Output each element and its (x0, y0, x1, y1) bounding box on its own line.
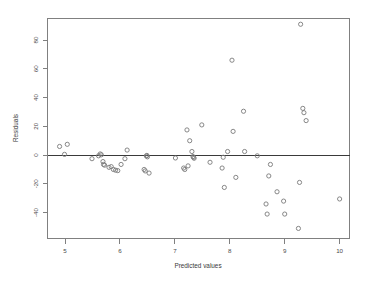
data-point (234, 175, 238, 179)
y-axis-tick-labels: -40-20020406080 (32, 36, 39, 217)
data-point (222, 185, 226, 189)
x-tick-label-8: 8 (228, 247, 232, 254)
data-point (208, 160, 212, 164)
data-point (338, 197, 342, 201)
x-tick-label-5: 5 (63, 247, 67, 254)
data-point (188, 139, 192, 143)
plot-frame (48, 19, 350, 239)
data-point (173, 156, 177, 160)
data-point (299, 22, 303, 26)
y-tick-label-20: 20 (32, 122, 39, 129)
x-axis-title: Predicted values (174, 262, 221, 269)
x-axis-tick-labels: 5678910 (63, 247, 343, 254)
data-point (186, 164, 190, 168)
data-point (230, 58, 234, 62)
data-point (147, 171, 151, 175)
plot-canvas: 5678910 -40-20020406080 Predicted values… (0, 0, 369, 281)
x-axis-ticks (65, 239, 340, 244)
data-point (185, 128, 189, 132)
data-point (119, 162, 123, 166)
y-tick-label--40: -40 (32, 208, 39, 218)
y-tick-label--20: -20 (32, 179, 39, 189)
data-point (90, 157, 94, 161)
data-point (264, 202, 268, 206)
data-point (190, 149, 194, 153)
y-tick-label-40: 40 (32, 94, 39, 101)
data-point (220, 166, 224, 170)
data-point (268, 162, 272, 166)
data-point (200, 123, 204, 127)
data-point (296, 226, 300, 230)
x-tick-label-10: 10 (336, 247, 343, 254)
y-axis-ticks (43, 40, 48, 213)
data-point (226, 149, 230, 153)
data-point (221, 155, 225, 159)
data-point (265, 212, 269, 216)
y-tick-label-80: 80 (32, 36, 39, 43)
x-tick-label-6: 6 (118, 247, 122, 254)
data-point (301, 106, 305, 110)
y-axis-title: Residuals (12, 114, 19, 142)
data-point (62, 152, 66, 156)
data-point (65, 142, 69, 146)
data-point (267, 174, 271, 178)
data-point (283, 212, 287, 216)
data-point (304, 118, 308, 122)
data-point (57, 144, 61, 148)
data-point (231, 129, 235, 133)
data-point (302, 111, 306, 115)
x-tick-label-9: 9 (283, 247, 287, 254)
data-point (241, 109, 245, 113)
residual-plot-figure: 5678910 -40-20020406080 Predicted values… (0, 0, 369, 281)
data-point (275, 190, 279, 194)
data-points (57, 22, 341, 230)
data-point (123, 157, 127, 161)
y-tick-label-0: 0 (32, 153, 39, 157)
x-tick-label-7: 7 (173, 247, 177, 254)
data-point (297, 180, 301, 184)
data-point (282, 199, 286, 203)
y-tick-label-60: 60 (32, 65, 39, 72)
data-point (255, 154, 259, 158)
data-point (125, 148, 129, 152)
data-point (243, 149, 247, 153)
